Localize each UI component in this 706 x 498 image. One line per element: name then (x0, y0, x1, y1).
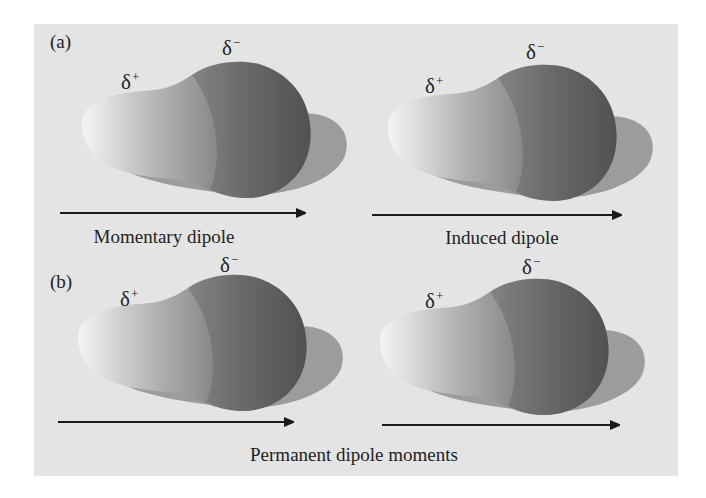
delta-plus-label: δ+ (425, 289, 443, 312)
delta-minus-label: δ− (222, 36, 240, 59)
dipole-figure: (a) (b) δ+ δ− δ+ δ− δ+ δ− δ+ δ− Momentar… (0, 0, 706, 498)
molecule-b-left (78, 275, 343, 411)
delta-plus-label: δ+ (425, 74, 443, 97)
delta-minus-label: δ− (522, 255, 540, 278)
delta-plus-label: δ+ (121, 70, 139, 93)
molecule-graphics (0, 0, 706, 498)
molecule-b-right (380, 279, 645, 415)
delta-minus-label: δ− (220, 253, 238, 276)
delta-plus-label: δ+ (120, 287, 138, 310)
delta-minus-label: δ− (526, 40, 544, 63)
panel-label-a: (a) (50, 32, 71, 51)
caption-induced-dipole: Induced dipole (445, 228, 558, 247)
caption-momentary-dipole: Momentary dipole (94, 227, 235, 246)
panel-label-b: (b) (50, 272, 72, 291)
caption-permanent-dipole-moments: Permanent dipole moments (250, 445, 458, 464)
